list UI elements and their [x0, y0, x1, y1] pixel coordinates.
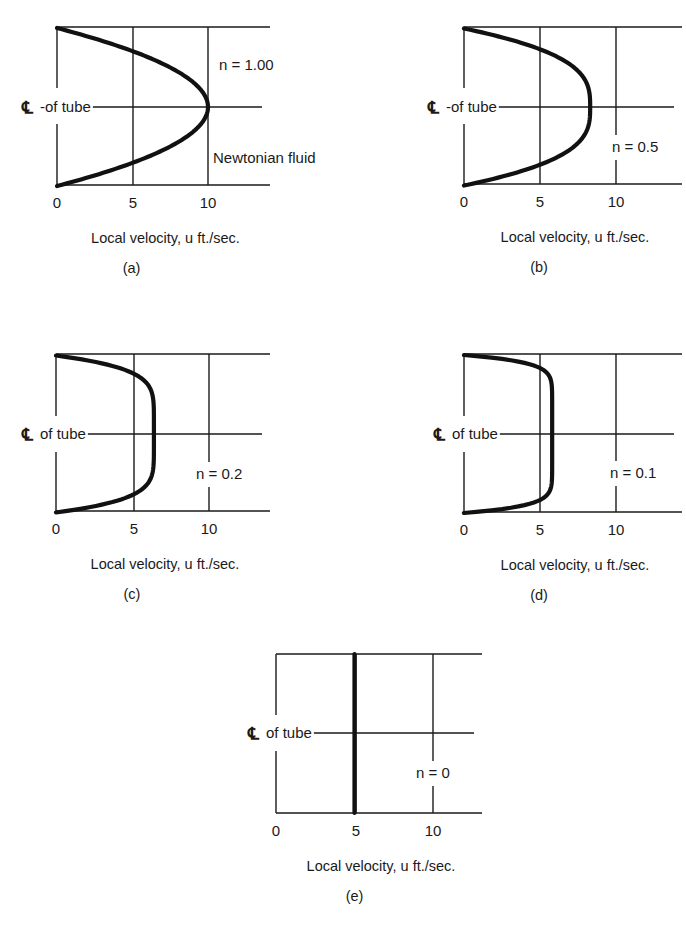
x-tick-label: 5: [352, 822, 360, 839]
centerline-symbol: ℄: [21, 425, 34, 444]
x-tick-label: 0: [272, 822, 280, 839]
centerline-symbol: ℄: [427, 98, 440, 117]
panel-caption: (a): [123, 260, 141, 276]
x-tick-label: 5: [536, 521, 544, 538]
x-tick-label: 0: [53, 194, 61, 211]
panel-a: ℄-of tuben = 1.00Newtonian fluid0510Loca…: [21, 27, 316, 276]
fluid-type-label: Newtonian fluid: [213, 149, 316, 166]
x-tick-label: 5: [129, 194, 137, 211]
panel-b: ℄-of tuben = 0.50510Local velocity, u ft…: [427, 27, 682, 275]
x-tick-label: 10: [200, 194, 217, 211]
centerline-label: -of tube: [40, 98, 91, 115]
x-tick-label: 10: [425, 822, 442, 839]
centerline-symbol: ℄: [433, 425, 446, 444]
flow-index-label: n = 1.00: [219, 56, 274, 73]
panel-c: ℄of tuben = 0.20510Local velocity, u ft.…: [21, 354, 270, 602]
flow-index-label: n = 0.2: [196, 465, 242, 482]
panel-d: ℄of tuben = 0.10510Local velocity, u ft.…: [433, 354, 682, 603]
x-axis-label: Local velocity, u ft./sec.: [91, 230, 240, 246]
centerline-symbol: ℄: [247, 724, 260, 743]
centerline-label: -of tube: [446, 98, 497, 115]
x-axis-label: Local velocity, u ft./sec.: [307, 858, 456, 874]
flow-index-label: n = 0.1: [610, 464, 656, 481]
centerline-symbol: ℄: [21, 98, 34, 117]
panel-caption: (b): [530, 259, 548, 275]
velocity-profile-figure: ℄-of tuben = 1.00Newtonian fluid0510Loca…: [0, 0, 686, 927]
x-tick-label: 5: [130, 520, 138, 537]
panel-caption: (e): [346, 888, 364, 904]
centerline-label: of tube: [266, 724, 312, 741]
x-axis-label: Local velocity, u ft./sec.: [501, 229, 650, 245]
x-tick-label: 0: [460, 193, 468, 210]
flow-index-label: n = 0.5: [612, 138, 658, 155]
flow-index-label: n = 0: [416, 764, 450, 781]
x-tick-label: 10: [201, 520, 218, 537]
x-tick-label: 5: [536, 193, 544, 210]
centerline-label: of tube: [452, 425, 498, 442]
centerline-label: of tube: [40, 425, 86, 442]
x-tick-label: 0: [52, 520, 60, 537]
panel-caption: (d): [530, 587, 548, 603]
x-tick-label: 10: [608, 193, 625, 210]
panel-caption: (c): [124, 586, 141, 602]
x-axis-label: Local velocity, u ft./sec.: [91, 556, 240, 572]
x-axis-label: Local velocity, u ft./sec.: [501, 557, 650, 573]
x-tick-label: 10: [608, 521, 625, 538]
panel-e: ℄of tuben = 00510Local velocity, u ft./s…: [247, 654, 482, 904]
x-tick-label: 0: [460, 521, 468, 538]
